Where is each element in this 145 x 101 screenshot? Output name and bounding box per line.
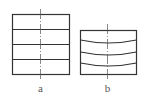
diagram-canvas: a b	[0, 0, 145, 101]
panel-b-label: b	[105, 82, 111, 94]
panel-b: b	[81, 24, 137, 94]
panel-b-curve-3	[81, 63, 137, 66]
panel-a-label: a	[38, 82, 43, 94]
panel-b-box	[81, 31, 137, 75]
panel-b-curve-2	[81, 52, 137, 55]
panel-a: a	[13, 9, 70, 94]
panel-b-curve-1	[81, 40, 137, 43]
